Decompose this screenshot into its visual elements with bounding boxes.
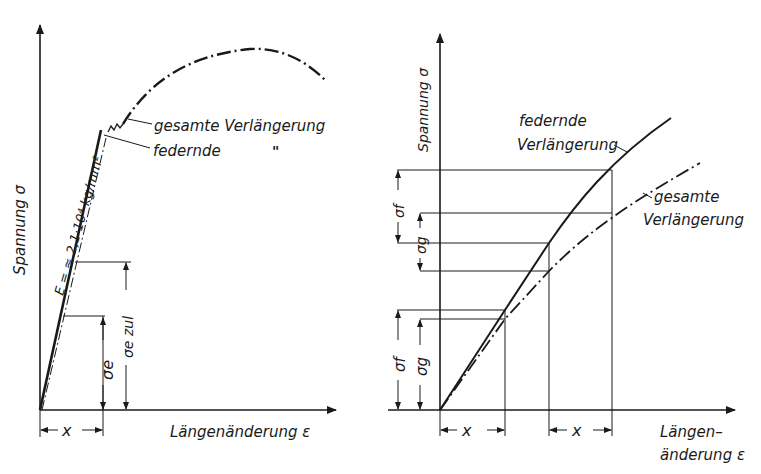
right-elastic-label-line1: federnde [519,112,587,130]
right-sigma-f-lower-label: σf [391,354,409,372]
right-x-axis-label-line2: änderung ε [660,446,745,464]
right-total-label-line2: Verlängerung [643,211,744,229]
left-x-axis-label: Längenänderung ε [170,423,310,441]
left-sigma-e-label: σe [98,360,117,380]
right-x-dim-left-label: x [461,421,472,440]
right-sigma-g-lower-label: σg [413,357,431,376]
left-leader-elastic [104,135,150,148]
left-diagram: gesamte Verlängerung federnde " E = ≈ 2,… [11,25,336,441]
left-total-label: gesamte Verlängerung [154,117,325,135]
left-leader-total [128,119,152,124]
left-total-curve [123,49,325,124]
right-diagram: Spannung σ federnde Verlängerung gesamte… [388,34,745,464]
stress-strain-diagrams: gesamte Verlängerung federnde " E = ≈ 2,… [0,0,761,474]
left-modulus-label: E = ≈ 2,1·10⁴ kg/mm² [51,154,105,296]
right-total-label-line1: gesamte [654,188,719,206]
left-sigma-ezul-label: σe zul [120,316,136,358]
right-y-axis-label: Spannung σ [415,67,431,152]
right-x-dim-right-label: x [571,421,582,440]
right-sigma-g-upper-label: σg [413,236,429,254]
right-elastic-label-line2: Verlängerung [517,136,618,154]
left-yield-zigzag [108,124,123,132]
right-sigma-f-upper-label: σf [391,202,407,218]
left-ditto-mark: " [272,143,279,159]
left-x-dim-label: x [61,421,72,440]
left-y-axis-label: Spannung σ [11,184,29,275]
right-x-axis-label-line1: Längen– [660,423,723,441]
left-elastic-label: federnde [153,142,221,160]
